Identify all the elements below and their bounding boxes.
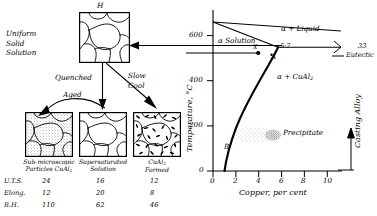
row-value: 110	[42, 202, 55, 209]
annotation-precipitate: Precipitate	[283, 129, 323, 137]
micrograph-box-cual2-formed	[133, 112, 181, 157]
x-tick-label-0: 0	[210, 177, 215, 185]
x-tick-label-8: 8	[301, 177, 306, 185]
x-tick-label-10: 10	[323, 177, 332, 185]
slow-label: Slow	[128, 72, 146, 80]
y-tick-label-400: 400	[189, 76, 203, 84]
row-label: Elong.	[4, 190, 25, 197]
annotation-point-a: A	[271, 53, 276, 61]
micrograph-box-supersaturated	[79, 112, 127, 157]
y-tick-label-600: 600	[189, 31, 203, 39]
x-tick-label-4: 4	[256, 177, 261, 185]
uniform-line-1: Uniform	[6, 30, 36, 38]
x-tick-label-2: 2	[233, 177, 238, 185]
quenched-label: Quenched	[55, 74, 92, 82]
annotation-alpha-plus-liquid: α + Liquid	[281, 25, 320, 33]
slow-cool-label: Slow Cool	[128, 72, 146, 89]
x-tick-label-6: 6	[279, 177, 284, 185]
row-value: 24	[42, 178, 50, 185]
row-value: 12	[42, 190, 50, 197]
annotation-casting-alloy: Casting Alloy	[354, 94, 362, 148]
row-label: U.T.S.	[4, 178, 23, 185]
row-value: 62	[96, 202, 104, 209]
caption-cual2-formed: CuAl2 Formed	[130, 159, 184, 173]
y-tick-label-0: 0	[199, 166, 204, 174]
uniform-line-3: Solution	[6, 49, 36, 57]
row-value: 46	[150, 202, 158, 209]
caption-supersaturated-line-2: Solution	[70, 166, 136, 172]
annotation-point-x: X	[253, 44, 257, 50]
annotation-eutectic-value: 33	[358, 43, 366, 50]
cool-label: Cool	[128, 82, 146, 90]
point-X-marker	[256, 51, 260, 55]
y-axis-label: Temperature, °C	[186, 84, 194, 152]
uniform-line-2: Solid	[6, 40, 36, 48]
caption-cual2-line-2: Formed	[130, 167, 184, 173]
micrograph-box-h	[79, 12, 130, 63]
row-label: B.H.	[4, 202, 19, 209]
row-value: 16	[96, 178, 104, 185]
figure-root: Uniform Solid Solution H	[0, 0, 377, 216]
annotation-alpha-plus-cual2: α + CuAl2	[277, 73, 313, 81]
annotation-eutectic-composition: 5·7	[280, 43, 291, 50]
caption-supersaturated: Supersaturated Solution	[70, 159, 136, 173]
row-value: 20	[96, 190, 104, 197]
row-value: 12	[150, 178, 158, 185]
aged-label: Aged	[63, 91, 82, 99]
row-value: 8	[150, 190, 154, 197]
uniform-solid-solution-label: Uniform Solid Solution	[6, 30, 36, 57]
caption-cual2-line-1: CuAl2	[130, 159, 184, 166]
annotation-point-b: B	[224, 143, 229, 151]
annotation-eutectic-label: Eutectic	[346, 52, 374, 59]
box-h-label: H	[97, 2, 103, 10]
x-axis-label: Copper, per cent	[239, 189, 307, 197]
micrograph-box-submicroscopic	[25, 112, 73, 157]
annotation-alpha-solution: α Solution	[218, 37, 255, 45]
